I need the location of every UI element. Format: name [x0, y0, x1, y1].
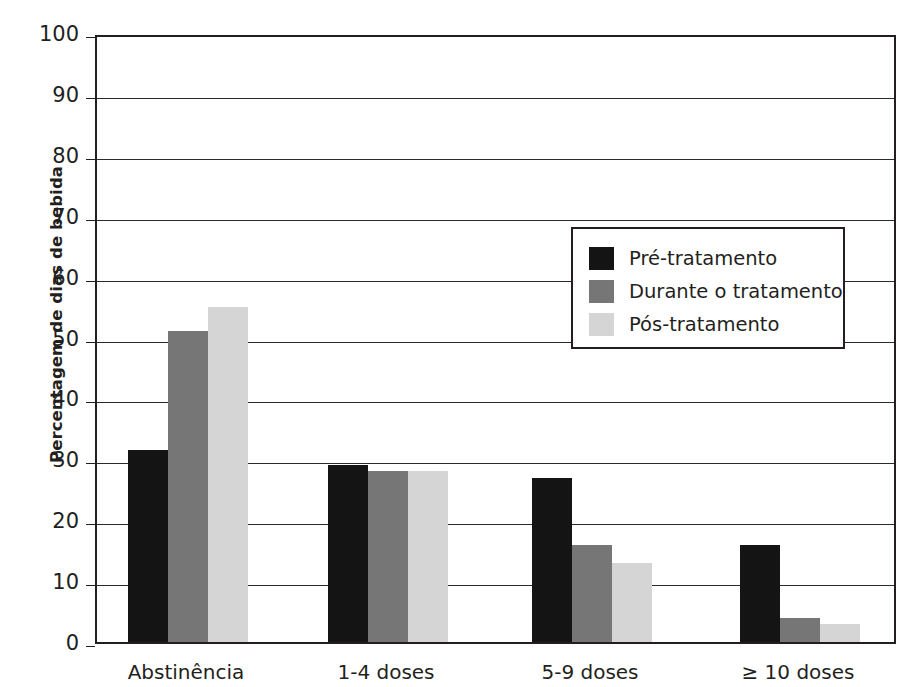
gridline	[97, 159, 894, 160]
bar-durante-o-tratamento	[572, 545, 612, 642]
y-axis-tick-label: 70	[17, 207, 79, 228]
y-axis-tick-label: 20	[17, 511, 79, 532]
bar-durante-o-tratamento	[168, 331, 208, 642]
bar-chart-figure: Percentagem de dias de bebida 0102030405…	[0, 0, 918, 687]
legend-item: Pré-tratamento	[589, 242, 843, 275]
plot-area: Pré-tratamento Durante o tratamento Pós-…	[95, 35, 896, 644]
y-axis-tick	[86, 524, 95, 525]
bar-pos-tratamento	[612, 563, 652, 642]
x-axis-category-label: 5-9 doses	[480, 660, 700, 684]
y-axis-tick	[86, 646, 95, 647]
y-axis-tick-label: 0	[17, 633, 79, 654]
x-axis-category-label: Abstinência	[76, 660, 296, 684]
legend-label-pos-tratamento: Pós-tratamento	[629, 315, 779, 335]
legend-label-durante-o-tratamento: Durante o tratamento	[629, 282, 843, 302]
bar-pre-tratamento	[740, 545, 780, 642]
legend-item: Durante o tratamento	[589, 275, 843, 308]
legend-swatch-pos-tratamento	[589, 313, 614, 336]
legend-swatch-pre-tratamento	[589, 247, 614, 270]
y-axis-tick-label: 30	[17, 450, 79, 471]
bar-pre-tratamento	[328, 465, 368, 642]
legend-label-pre-tratamento: Pré-tratamento	[629, 249, 777, 269]
y-axis-tick-label: 90	[17, 85, 79, 106]
y-axis-tick	[86, 281, 95, 282]
y-axis-tick	[86, 342, 95, 343]
legend-swatch-durante-o-tratamento	[589, 280, 614, 303]
legend-item: Pós-tratamento	[589, 308, 843, 341]
y-axis-tick-label: 60	[17, 268, 79, 289]
bar-pre-tratamento	[532, 478, 572, 642]
y-axis-tick-label: 40	[17, 389, 79, 410]
y-axis-tick	[86, 220, 95, 221]
legend: Pré-tratamento Durante o tratamento Pós-…	[571, 227, 845, 349]
y-axis-tick	[86, 37, 95, 38]
bar-pos-tratamento	[208, 307, 248, 642]
y-axis-tick-label: 100	[17, 24, 79, 45]
x-axis-category-label: ≥ 10 doses	[688, 660, 908, 684]
bar-durante-o-tratamento	[368, 471, 408, 642]
gridline	[97, 220, 894, 221]
bar-pos-tratamento	[820, 624, 860, 642]
x-axis-category-label: 1-4 doses	[276, 660, 496, 684]
y-axis-tick-label: 80	[17, 146, 79, 167]
y-axis-tick-label: 10	[17, 572, 79, 593]
gridline	[97, 98, 894, 99]
y-axis-tick	[86, 463, 95, 464]
y-axis-tick	[86, 159, 95, 160]
bar-durante-o-tratamento	[780, 618, 820, 642]
bar-pre-tratamento	[128, 450, 168, 642]
bar-pos-tratamento	[408, 471, 448, 642]
y-axis-tick	[86, 98, 95, 99]
y-axis-tick	[86, 585, 95, 586]
y-axis-tick-label: 50	[17, 329, 79, 350]
y-axis-tick	[86, 402, 95, 403]
